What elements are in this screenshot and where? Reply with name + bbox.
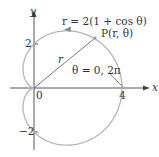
- cardioid-diagram: r = 2(1 + cos θ) P(r, θ) r θ = 0, 2π x y…: [0, 0, 159, 157]
- radius-label: r: [58, 53, 64, 65]
- y2-label: 2: [25, 37, 32, 49]
- curve-equation-label: r = 2(1 + cos θ): [62, 15, 147, 27]
- x-axis-label: x: [152, 81, 158, 93]
- point-p: [93, 36, 96, 39]
- yneg2-label: −2: [19, 125, 34, 137]
- origin-label: 0: [36, 89, 43, 101]
- y-axis-label: y: [29, 5, 37, 17]
- radius-line: [34, 38, 95, 88]
- x-axis-arrow-icon: [143, 86, 150, 91]
- x4-label: 4: [119, 89, 126, 101]
- angle-label: θ = 0, 2π: [72, 64, 121, 76]
- point-label: P(r, θ): [101, 27, 133, 39]
